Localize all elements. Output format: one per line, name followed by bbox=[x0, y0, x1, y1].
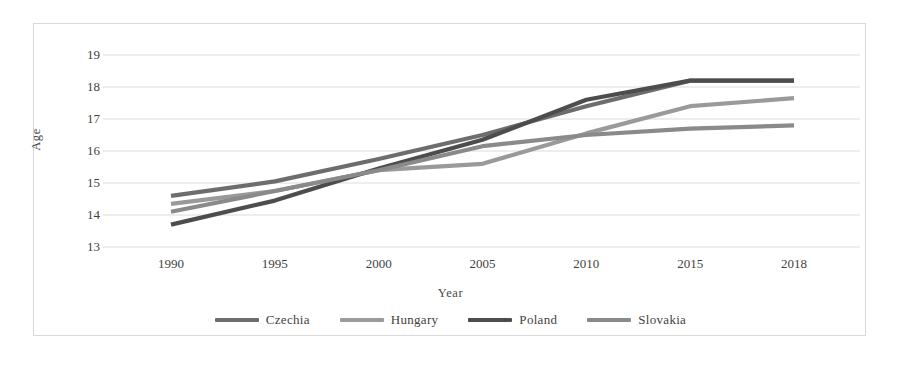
y-tick-label: 16 bbox=[60, 143, 100, 159]
y-tick-label: 17 bbox=[60, 111, 100, 127]
legend-item-poland[interactable]: Poland bbox=[468, 312, 557, 328]
legend-swatch-icon bbox=[468, 318, 512, 322]
chart-frame: 13141516171819 1990199520002005201020152… bbox=[33, 23, 866, 336]
legend-item-czechia[interactable]: Czechia bbox=[215, 312, 310, 328]
legend-label: Poland bbox=[519, 312, 557, 328]
plot-area: 13141516171819 1990199520002005201020152… bbox=[34, 24, 867, 335]
legend-label: Slovakia bbox=[638, 312, 686, 328]
legend-swatch-icon bbox=[215, 318, 259, 322]
x-tick-label: 1990 bbox=[158, 256, 184, 272]
chart-legend: CzechiaHungaryPolandSlovakia bbox=[34, 312, 867, 328]
x-tick-label: 2005 bbox=[470, 256, 496, 272]
legend-label: Hungary bbox=[391, 312, 439, 328]
x-axis-title: Year bbox=[34, 286, 867, 301]
x-tick-label: 2015 bbox=[677, 256, 703, 272]
legend-item-slovakia[interactable]: Slovakia bbox=[587, 312, 686, 328]
series-line-poland bbox=[171, 81, 794, 225]
y-tick-label: 19 bbox=[60, 47, 100, 63]
legend-swatch-icon bbox=[587, 318, 631, 322]
y-tick-label: 18 bbox=[60, 79, 100, 95]
y-axis-title: Age bbox=[29, 128, 44, 151]
legend-swatch-icon bbox=[340, 318, 384, 322]
y-tick-label: 14 bbox=[60, 207, 100, 223]
x-tick-label: 2018 bbox=[781, 256, 807, 272]
series-lines bbox=[171, 81, 794, 225]
x-tick-label: 1995 bbox=[262, 256, 288, 272]
y-tick-label: 13 bbox=[60, 239, 100, 255]
x-axis-tick-labels: 1990199520002005201020152018 bbox=[34, 256, 867, 280]
x-tick-label: 2010 bbox=[573, 256, 599, 272]
legend-label: Czechia bbox=[266, 312, 310, 328]
y-tick-label: 15 bbox=[60, 175, 100, 191]
gridlines bbox=[103, 55, 860, 247]
legend-item-hungary[interactable]: Hungary bbox=[340, 312, 439, 328]
x-tick-label: 2000 bbox=[366, 256, 392, 272]
